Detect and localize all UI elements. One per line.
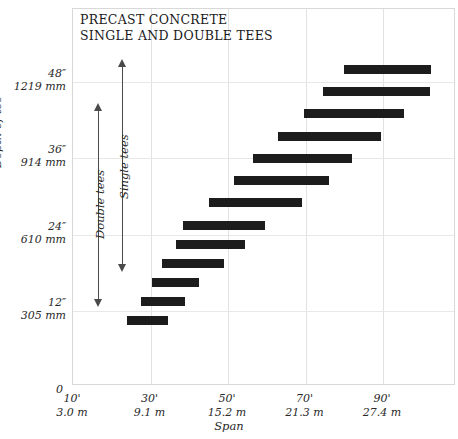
y-axis-tick-label: 48″1219 mm [0,67,66,93]
gridline-horizontal [73,311,454,312]
y-axis-tick-label: 24″610 mm [0,220,66,246]
x-axis-tick-label: 70'21.3 m [270,392,340,420]
x-tick-feet: 50' [192,392,262,406]
bar-segment [183,221,264,230]
y-tick-inches: 36″ [0,143,66,156]
annotation-label: Single tees [117,135,131,200]
x-tick-feet: 90' [347,392,417,406]
arrowhead-down-icon [94,299,102,307]
x-tick-meters: 21.3 m [270,406,340,420]
bar-segment [234,176,329,185]
bar-segment [162,259,224,268]
y-tick-inches: 12″ [0,296,66,309]
bar-segment [278,132,381,141]
x-tick-meters: 9.1 m [115,406,185,420]
bar-segment [127,316,168,325]
gridline-horizontal [73,235,454,236]
x-tick-meters: 3.0 m [37,406,107,420]
bar-segment [344,65,431,74]
gridline-vertical [306,9,307,384]
precast-concrete-span-depth-chart: PRECAST CONCRETE SINGLE AND DOUBLE TEES … [0,0,458,439]
gridline-horizontal [73,82,454,83]
annotation-label: Double tees [93,170,107,239]
x-axis-tick-label: 10'3.0 m [37,392,107,420]
x-tick-feet: 30' [115,392,185,406]
arrowhead-down-icon [118,264,126,272]
chart-title-line-1: PRECAST CONCRETE [80,12,228,27]
chart-title: PRECAST CONCRETE SINGLE AND DOUBLE TEES [80,12,273,44]
x-axis-title: Span [0,419,458,433]
y-tick-millimeters: 305 mm [0,309,66,322]
x-tick-feet: 70' [270,392,340,406]
x-tick-meters: 15.2 m [192,406,262,420]
y-tick-millimeters: 914 mm [0,156,66,169]
bar-segment [152,278,199,287]
chart-title-line-2: SINGLE AND DOUBLE TEES [80,28,273,44]
bar-segment [323,87,430,96]
arrowhead-up-icon [118,59,126,67]
x-axis-tick-label: 30'9.1 m [115,392,185,420]
y-tick-inches: 24″ [0,220,66,233]
y-tick-millimeters: 610 mm [0,233,66,246]
x-axis-tick-label: 90'27.4 m [347,392,417,420]
bar-segment [253,154,352,163]
bar-segment [209,198,302,207]
y-axis-tick-label: 36″914 mm [0,143,66,169]
bar-segment [141,297,186,306]
y-tick-millimeters: 1219 mm [0,80,66,93]
arrowhead-up-icon [94,103,102,111]
x-axis-tick-label: 50'15.2 m [192,392,262,420]
gridline-vertical [151,9,152,384]
x-tick-feet: 10' [37,392,107,406]
x-tick-meters: 27.4 m [347,406,417,420]
y-tick-inches: 48″ [0,67,66,80]
y-axis-tick-label: 12″305 mm [0,296,66,322]
gridline-vertical [228,9,229,384]
bar-segment [304,109,405,118]
bar-segment [176,240,246,249]
